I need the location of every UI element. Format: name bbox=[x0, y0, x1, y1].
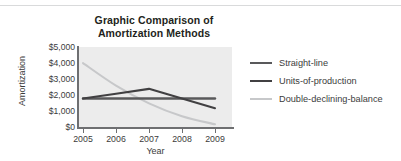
chart-figure: Graphic Comparison of Amortization Metho… bbox=[0, 0, 401, 161]
chart-legend: Straight-line Units-of-production Double… bbox=[250, 54, 400, 108]
legend-swatch-straight-line bbox=[250, 62, 272, 64]
legend-item-straight-line: Straight-line bbox=[250, 54, 400, 72]
legend-item-units-of-production: Units-of-production bbox=[250, 72, 400, 90]
legend-label-units-of-production: Units-of-production bbox=[279, 76, 357, 86]
legend-item-double-declining-balance: Double-declining-balance bbox=[250, 90, 400, 108]
legend-swatch-double-declining-balance bbox=[250, 98, 272, 100]
legend-label-straight-line: Straight-line bbox=[279, 58, 328, 68]
series-double-declining-balance bbox=[83, 63, 215, 124]
legend-swatch-units-of-production bbox=[250, 80, 272, 82]
legend-label-double-declining-balance: Double-declining-balance bbox=[279, 94, 383, 104]
